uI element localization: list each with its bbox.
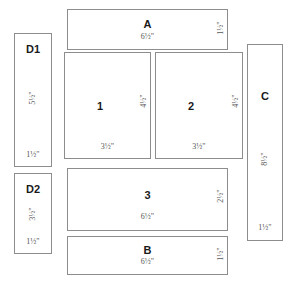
piece-2-height-dimension: 4½"	[232, 84, 240, 118]
piece-b-width-dimension: 6½"	[68, 258, 227, 266]
piece-3-width-dimension: 6½"	[68, 213, 227, 221]
piece-1-height-dimension: 4½"	[140, 84, 148, 118]
piece-a-label: A	[68, 19, 227, 30]
piece-3-height-dimension: 2½"	[217, 178, 225, 214]
piece-d1-width-dimension: 1½"	[15, 151, 51, 159]
piece-1-width-dimension: 3½"	[65, 143, 150, 151]
piece-b: B 6½" 1½"	[67, 236, 228, 275]
piece-c-label: C	[248, 91, 282, 102]
piece-d1-height-dimension: 5½"	[29, 60, 37, 136]
piece-d1: D1 5½" 1½"	[14, 33, 52, 167]
piece-c-height-dimension: 8½"	[261, 122, 269, 196]
piece-2-label: 2	[188, 101, 194, 112]
piece-a-width-dimension: 6½"	[68, 33, 227, 41]
piece-d1-label: D1	[15, 44, 51, 55]
piece-2-width-dimension: 3½"	[156, 143, 242, 151]
cutting-layout-diagram: D1 5½" 1½" D2 3½" 1½" A 6½" 1½" 1 4½" 3½…	[0, 0, 297, 283]
piece-3: 3 6½" 2½"	[67, 168, 228, 231]
piece-d2: D2 3½" 1½"	[14, 173, 52, 254]
piece-c-width-dimension: 1½"	[248, 224, 282, 232]
piece-b-height-dimension: 1½"	[217, 236, 225, 272]
piece-a-height-dimension: 1½"	[217, 10, 225, 46]
piece-b-label: B	[68, 245, 227, 256]
piece-2: 2 4½" 3½"	[155, 52, 243, 159]
piece-c: C 8½" 1½"	[247, 44, 283, 241]
piece-3-label: 3	[68, 190, 227, 201]
piece-d2-width-dimension: 1½"	[15, 238, 51, 246]
piece-a: A 6½" 1½"	[67, 9, 228, 50]
piece-1: 1 4½" 3½"	[64, 52, 151, 159]
piece-1-label: 1	[97, 101, 103, 112]
